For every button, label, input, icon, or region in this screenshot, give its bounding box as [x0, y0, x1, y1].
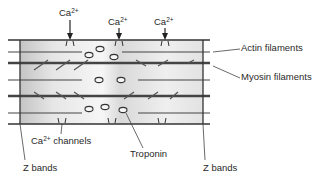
ca-label-base: Ca — [154, 16, 166, 27]
z-bands-label-left: Z bands — [23, 162, 57, 173]
ca-label-charge: 2+ — [120, 16, 127, 23]
calcium-ion-label-3: Ca2+ — [154, 14, 174, 27]
ca-channels-charge: 2+ — [43, 135, 50, 142]
myosin-filaments-label: Myosin filaments — [241, 71, 312, 82]
troponin-label: Troponin — [130, 148, 167, 159]
calcium-ion-label-1: Ca2+ — [59, 5, 79, 18]
ca-channels-base: Ca — [31, 135, 43, 146]
calcium-channels-label: Ca2+ channels — [31, 133, 91, 146]
ca-channels-rest: channels — [51, 135, 92, 146]
ca-label-charge: 2+ — [166, 16, 173, 23]
ca-label-base: Ca — [59, 7, 71, 18]
ca-label-base: Ca — [108, 16, 120, 27]
actin-filaments-label: Actin filaments — [241, 42, 303, 53]
sarcomere-background — [20, 40, 203, 124]
calcium-ion-label-2: Ca2+ — [108, 14, 128, 27]
z-bands-label-right: Z bands — [203, 162, 237, 173]
ca-label-charge: 2+ — [71, 7, 78, 14]
